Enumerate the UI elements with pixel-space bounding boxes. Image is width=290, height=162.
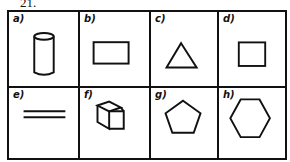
cell-g[interactable]: g) — [151, 88, 219, 158]
cell-a[interactable]: a) — [9, 12, 80, 88]
cell-b[interactable]: b) — [80, 12, 151, 88]
square-icon — [219, 12, 285, 86]
cell-f[interactable]: f) — [80, 88, 151, 158]
shapes-grid: a) b) c) d) e) f) — [7, 10, 287, 160]
cell-c[interactable]: c) — [151, 12, 219, 88]
cylinder-icon — [9, 12, 78, 86]
rectangle-icon — [80, 12, 149, 86]
pentagon-icon — [151, 88, 217, 158]
cube-icon — [80, 88, 149, 158]
cell-h[interactable]: h) — [219, 88, 285, 158]
triangle-icon — [151, 12, 217, 86]
hexagon-icon — [219, 88, 285, 158]
parallel-lines-icon — [9, 88, 78, 158]
cell-d[interactable]: d) — [219, 12, 285, 88]
cell-e[interactable]: e) — [9, 88, 80, 158]
